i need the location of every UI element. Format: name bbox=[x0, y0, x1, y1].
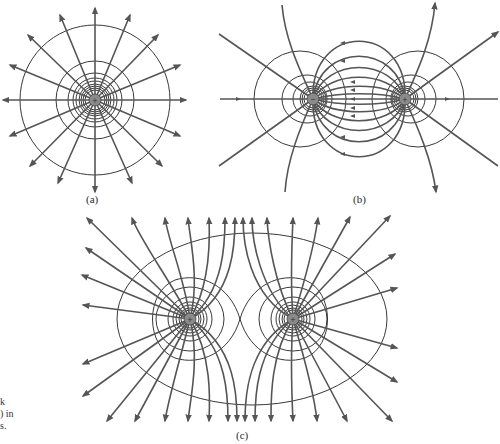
caption-line-3: s. bbox=[0, 420, 14, 432]
charge-symbol-b-neg: − bbox=[310, 94, 315, 104]
field-lines-b bbox=[219, 3, 498, 192]
charge-symbol-c-right: + bbox=[290, 315, 295, 325]
figure-label-a: (a) bbox=[86, 193, 98, 205]
figure-label-c: (c) bbox=[236, 429, 248, 441]
charge-symbol-a: + bbox=[92, 96, 97, 106]
diagram-b: − + bbox=[219, 3, 498, 192]
figure-label-b: (b) bbox=[353, 193, 366, 205]
caption-fragment: k ) in s. bbox=[0, 396, 14, 432]
field-diagrams: + bbox=[0, 0, 500, 444]
diagram-c: + + bbox=[82, 216, 397, 421]
diagram-a: + bbox=[3, 8, 186, 192]
charge-symbol-b-pos: + bbox=[402, 95, 407, 105]
charge-symbol-c-left: + bbox=[187, 315, 192, 325]
caption-line-1: k bbox=[0, 396, 14, 408]
caption-line-2: ) in bbox=[0, 408, 14, 420]
